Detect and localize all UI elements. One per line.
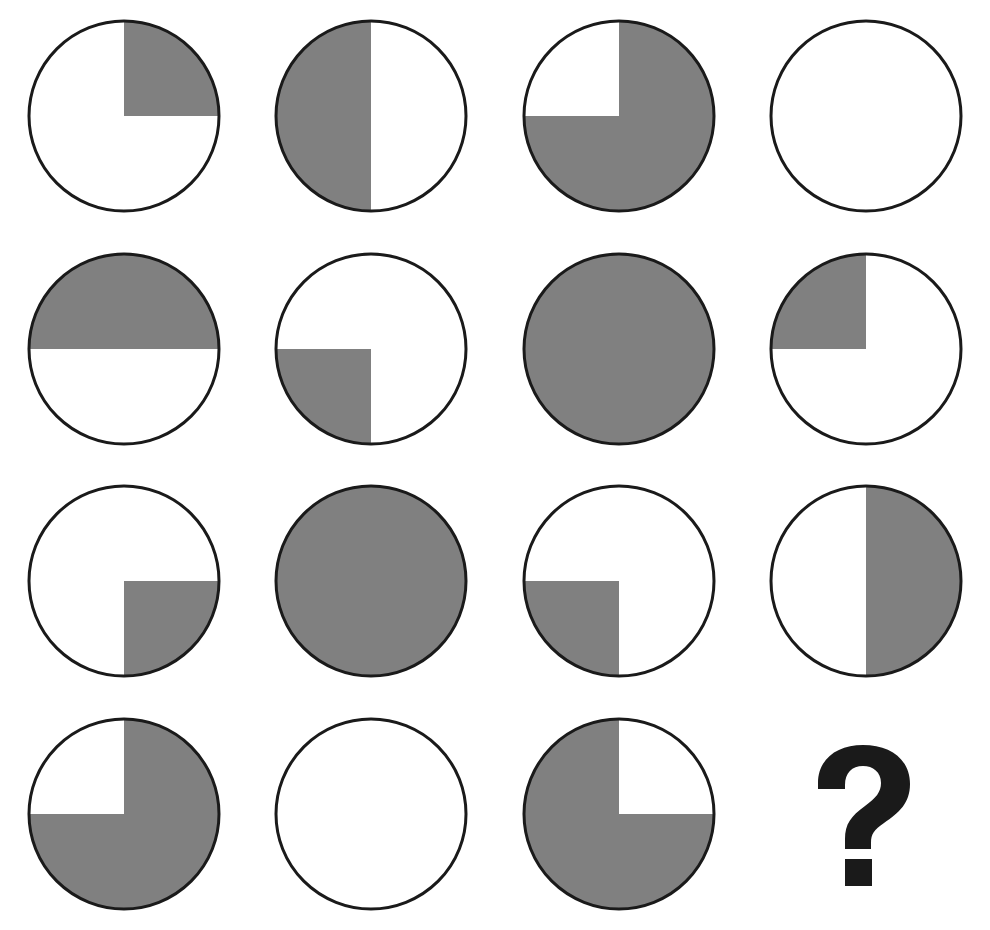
quartered-circle-r4c3 xyxy=(519,714,719,914)
quartered-circle-r2c3 xyxy=(519,249,719,449)
quartered-circle-r2c4 xyxy=(766,249,966,449)
grid-cell-r1c1 xyxy=(0,0,248,233)
grid-cell-r4c2 xyxy=(248,698,496,930)
grid-cell-r1c4 xyxy=(743,0,990,233)
grid-cell-r2c3 xyxy=(495,233,743,466)
quartered-circle-r3c1 xyxy=(24,481,224,681)
question-mark-hook xyxy=(818,745,910,849)
missing-answer-cell: ? xyxy=(743,698,990,930)
quartered-circle-r2c1 xyxy=(24,249,224,449)
grid-cell-r2c1 xyxy=(0,233,248,466)
grid-cell-r3c4 xyxy=(743,465,990,698)
quartered-circle-r3c4 xyxy=(766,481,966,681)
grid-cell-r3c3 xyxy=(495,465,743,698)
quartered-circle-r4c2 xyxy=(271,714,471,914)
grid-cell-r3c1 xyxy=(0,465,248,698)
grid-cell-r1c2 xyxy=(248,0,496,233)
quartered-circle-r3c2 xyxy=(271,481,471,681)
quartered-circle-r1c4 xyxy=(766,16,966,216)
grid-cell-r3c2 xyxy=(248,465,496,698)
grid-cell-r2c2 xyxy=(248,233,496,466)
question-mark-icon xyxy=(791,739,941,889)
grid-cell-r2c4 xyxy=(743,233,990,466)
grid-cell-r4c1 xyxy=(0,698,248,930)
quartered-circle-r2c2 xyxy=(271,249,471,449)
quartered-circle-r1c2 xyxy=(271,16,471,216)
quartered-circle-r1c1 xyxy=(24,16,224,216)
quartered-circle-r3c3 xyxy=(519,481,719,681)
question-mark-dot xyxy=(845,859,872,886)
grid-cell-r1c3 xyxy=(495,0,743,233)
quartered-circle-r4c1 xyxy=(24,714,224,914)
matrix-reasoning-grid: ? xyxy=(0,0,990,930)
grid-cell-r4c3 xyxy=(495,698,743,930)
quartered-circle-r1c3 xyxy=(519,16,719,216)
